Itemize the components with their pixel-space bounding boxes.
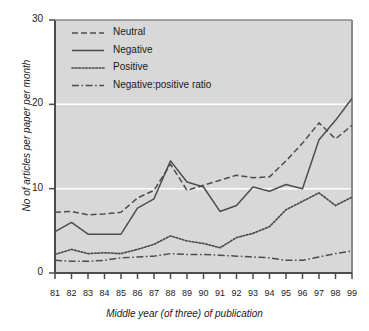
x-axis-tick-label: 89: [178, 288, 196, 298]
x-axis-tick-label: 83: [79, 288, 97, 298]
x-axis-tick-label: 91: [211, 288, 229, 298]
x-axis-tick-label: 96: [294, 288, 312, 298]
chart-figure: No of articles per paper per month Middl…: [0, 0, 369, 331]
y-axis-tick-label: 30: [21, 13, 43, 24]
x-axis-tick-label: 86: [129, 288, 147, 298]
x-axis-tick-label: 90: [195, 288, 213, 298]
x-axis-tick-label: 87: [145, 288, 163, 298]
x-axis-tick-label: 93: [244, 288, 262, 298]
x-axis-tick-label: 82: [63, 288, 81, 298]
legend-label-negative-positive-ratio: Negative:positive ratio: [113, 79, 211, 90]
y-axis-tick-label: 0: [21, 266, 43, 277]
x-axis-tick-label: 92: [228, 288, 246, 298]
plot-background: [55, 20, 352, 273]
x-axis-tick-label: 94: [261, 288, 279, 298]
legend-label-neutral: Neutral: [113, 26, 145, 37]
x-axis-tick-label: 97: [310, 288, 328, 298]
y-axis-tick-label: 20: [21, 97, 43, 108]
y-axis-tick-label: 10: [21, 182, 43, 193]
x-axis-tick-label: 95: [277, 288, 295, 298]
legend-label-negative: Negative: [113, 44, 152, 55]
x-axis-tick-label: 98: [327, 288, 345, 298]
x-axis-tick-label: 88: [162, 288, 180, 298]
plot-area: [0, 0, 369, 331]
x-axis-tick-label: 81: [46, 288, 64, 298]
x-axis-tick-label: 84: [96, 288, 114, 298]
x-axis-tick-label: 99: [343, 288, 361, 298]
x-axis-tick-label: 85: [112, 288, 130, 298]
legend-label-positive: Positive: [113, 61, 148, 72]
